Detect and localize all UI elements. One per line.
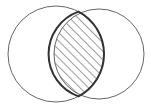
venn-diagram: [0, 0, 151, 109]
